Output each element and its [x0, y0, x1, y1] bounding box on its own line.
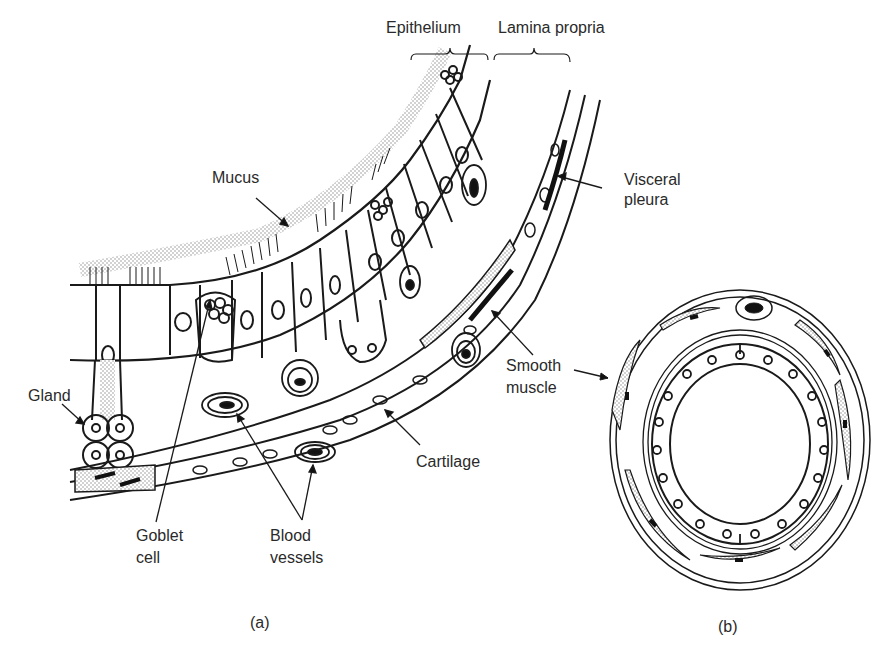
- label-visceral-pleura-line1: Visceral: [624, 170, 681, 189]
- panel-a-drawing: [62, 45, 602, 522]
- label-smooth-muscle-line1: Smooth: [506, 356, 561, 375]
- label-lamina-propria: Lamina propria: [498, 18, 605, 37]
- epithelial-ring: [652, 344, 828, 544]
- label-mucus: Mucus: [212, 168, 259, 187]
- label-blood-vessels-line2: vessels: [270, 548, 323, 567]
- label-smooth-muscle-line2: muscle: [506, 378, 557, 397]
- caption-panel-b: (b): [718, 618, 738, 636]
- label-epithelium: Epithelium: [386, 18, 461, 37]
- label-cartilage: Cartilage: [416, 452, 480, 471]
- label-gland: Gland: [28, 386, 71, 405]
- label-goblet-cell-line1: Goblet: [136, 526, 183, 545]
- mucus-layer: [80, 50, 445, 270]
- airway-wall-illustration: [0, 0, 881, 653]
- caption-panel-a: (a): [250, 614, 270, 632]
- panel-b-drawing: [574, 290, 870, 590]
- label-visceral-pleura-line2: pleura: [624, 190, 668, 209]
- label-blood-vessels-line1: Blood: [270, 526, 311, 545]
- label-goblet-cell-line2: cell: [136, 548, 160, 567]
- cartilage-cells: [193, 144, 559, 474]
- goblet-cells: [196, 66, 462, 362]
